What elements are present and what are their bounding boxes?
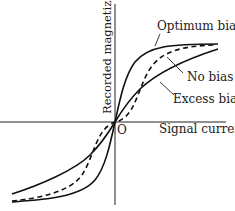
optimum-bias-leader — [155, 34, 160, 46]
y-axis-label: Recorded magnetization — [100, 0, 114, 114]
excess-bias-label: Excess bias — [173, 92, 235, 106]
excess-bias-leader — [160, 82, 174, 95]
origin-label: O — [117, 123, 127, 137]
no-bias-label: No bias — [187, 70, 233, 84]
bias-curves-diagram: Optimum bias No bias Excess bias Signal … — [0, 0, 235, 211]
no-bias-leader — [167, 57, 183, 73]
optimum-bias-label: Optimum bias — [157, 19, 235, 33]
x-axis-label: Signal current — [159, 122, 235, 136]
